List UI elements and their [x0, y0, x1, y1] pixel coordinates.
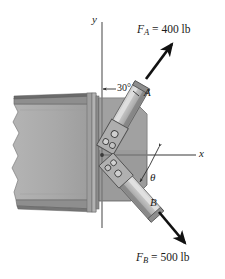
- force-a-equals: =: [152, 23, 159, 35]
- force-a-label: FA = 400 lb: [137, 24, 191, 36]
- member-b-label: B: [150, 197, 157, 208]
- x-axis-label: x: [199, 148, 204, 159]
- angle-30-label: 30°: [117, 83, 131, 93]
- statics-force-diagram: y x FA = 400 lb FB = 500 lb A B 30° θ: [0, 0, 225, 279]
- force-a-arrow: [146, 44, 172, 79]
- y-axis-label: y: [92, 14, 97, 25]
- force-b-equals: =: [151, 251, 158, 263]
- force-a-symbol: F: [137, 23, 144, 35]
- force-b-magnitude: 500: [160, 251, 177, 263]
- diagram-canvas: [0, 0, 225, 279]
- i-beam-structure: [12, 93, 99, 212]
- beam-end-plate-3: [96, 96, 99, 209]
- member-a-label: A: [144, 87, 151, 98]
- angle-theta-label: θ: [150, 172, 155, 183]
- force-a-magnitude: 400: [161, 23, 178, 35]
- force-a-subscript: A: [144, 27, 149, 37]
- origin-point: [100, 153, 104, 157]
- beam-web-face: [12, 104, 96, 200]
- force-a-unit: lb: [182, 23, 191, 35]
- force-b-label: FB = 500 lb: [136, 252, 190, 264]
- beam-end-plate-1: [87, 93, 92, 212]
- force-b-symbol: F: [136, 251, 143, 263]
- force-b-arrow: [159, 212, 185, 243]
- force-b-unit: lb: [181, 251, 190, 263]
- force-b-subscript: B: [143, 255, 148, 265]
- beam-end-plate-2: [92, 93, 96, 212]
